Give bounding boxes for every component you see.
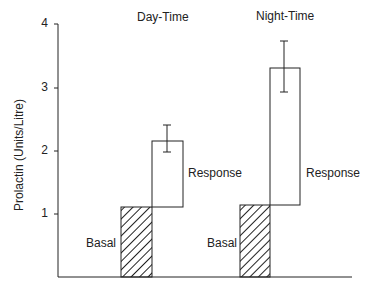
- night-time-label: Night-Time: [256, 9, 314, 23]
- y-axis-label: Prolactin (Units/Litre): [12, 99, 26, 211]
- night-basal-label: Basal: [207, 236, 237, 250]
- y-axis: [54, 24, 58, 277]
- day-basal-bar: [121, 207, 152, 277]
- y-tick-3: 3: [28, 80, 48, 94]
- night-response-bar: [270, 68, 300, 205]
- y-tick-2: 2: [28, 143, 48, 157]
- chart-canvas: [0, 0, 368, 289]
- night-response-label: Response: [306, 166, 360, 180]
- day-basal-label: Basal: [86, 236, 116, 250]
- night-basal-bar: [240, 205, 270, 277]
- day-time-label: Day-Time: [137, 10, 189, 24]
- day-response-label: Response: [188, 166, 242, 180]
- y-tick-4: 4: [28, 16, 48, 30]
- y-tick-1: 1: [28, 206, 48, 220]
